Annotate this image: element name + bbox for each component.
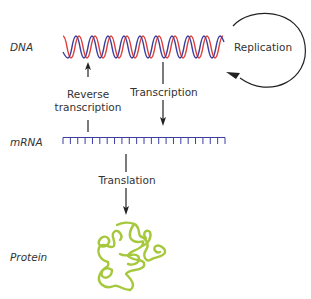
translation-label: Translation (96, 174, 158, 187)
protein-structure (98, 223, 165, 290)
protein-label: Protein (10, 251, 47, 263)
mrna-strand (63, 138, 225, 145)
transcription-label: Transcription (128, 86, 200, 99)
reverse-transcription-label: Reverse transcription (48, 88, 128, 114)
mrna-label: mRNA (10, 136, 43, 148)
dna-label: DNA (10, 41, 33, 53)
dna-helix (63, 36, 224, 58)
replication-label: Replication (234, 41, 292, 54)
